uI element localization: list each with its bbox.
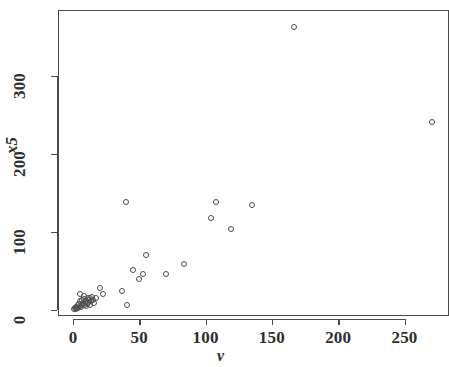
plot-area-frame	[58, 10, 449, 316]
x-axis-line	[73, 319, 405, 320]
x-tick-label: 100	[193, 328, 219, 348]
y-axis-line	[57, 76, 58, 310]
x-tick-label: 200	[325, 328, 351, 348]
x-tick-mark	[206, 319, 207, 325]
y-tick-label: 0	[10, 316, 30, 325]
y-tick-mark	[51, 154, 57, 155]
x-tick-label: 150	[259, 328, 285, 348]
x-axis-title: v	[0, 347, 449, 365]
x-axis-title-text: v	[217, 347, 224, 364]
x-tick-mark	[405, 319, 406, 325]
y-tick-label: 100	[10, 229, 30, 255]
x-tick-label: 250	[391, 328, 417, 348]
x-tick-mark	[338, 319, 339, 325]
x-tick-mark	[139, 319, 140, 325]
y-axis-title: x5	[2, 137, 22, 154]
x-tick-label: 50	[131, 328, 148, 348]
y-tick-mark	[51, 76, 57, 77]
y-tick-label: 200	[10, 151, 30, 177]
y-tick-mark	[51, 232, 57, 233]
x-tick-mark	[73, 319, 74, 325]
x-tick-label: 0	[69, 328, 78, 348]
y-tick-mark	[51, 310, 57, 311]
scatter-plot-figure: 050100150200250 0100200300 v x5	[0, 0, 449, 367]
x-tick-mark	[272, 319, 273, 325]
y-tick-label: 300	[10, 73, 30, 99]
